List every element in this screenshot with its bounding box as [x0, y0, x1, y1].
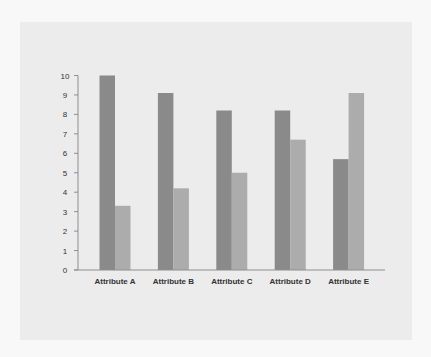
bar-attribute-e-series-2 — [349, 93, 365, 270]
y-tick-label: 9 — [63, 91, 68, 100]
bar-attribute-e-series-1 — [333, 159, 349, 270]
y-tick-label: 7 — [63, 130, 68, 139]
y-tick-label: 8 — [63, 110, 68, 119]
x-tick-label: Attribute D — [270, 277, 312, 286]
bar-attribute-b-series-2 — [173, 188, 189, 270]
bar-attribute-c-series-2 — [232, 173, 248, 270]
bar-attribute-d-series-1 — [275, 111, 291, 270]
x-axis: Attribute AAttribute BAttribute CAttribu… — [74, 270, 385, 286]
y-tick-label: 3 — [63, 208, 68, 217]
bar-attribute-a-series-2 — [115, 206, 131, 270]
bar-attribute-a-series-1 — [100, 76, 116, 271]
bar-chart: 012345678910 Attribute AAttribute BAttri… — [0, 0, 431, 357]
y-tick-label: 5 — [63, 169, 68, 178]
y-tick-label: 6 — [63, 149, 68, 158]
bar-attribute-c-series-1 — [216, 111, 232, 270]
y-axis: 012345678910 — [61, 72, 78, 276]
y-tick-label: 0 — [63, 266, 68, 275]
x-tick-label: Attribute B — [153, 277, 195, 286]
bar-attribute-b-series-1 — [158, 93, 174, 270]
y-tick-label: 2 — [63, 227, 68, 236]
x-tick-label: Attribute C — [211, 277, 253, 286]
x-tick-label: Attribute A — [94, 277, 135, 286]
bars-group — [100, 76, 365, 271]
y-tick-label: 1 — [63, 247, 68, 256]
y-tick-label: 10 — [61, 72, 70, 81]
y-tick-label: 4 — [63, 188, 68, 197]
bar-attribute-d-series-2 — [290, 140, 306, 270]
x-tick-label: Attribute E — [328, 277, 370, 286]
